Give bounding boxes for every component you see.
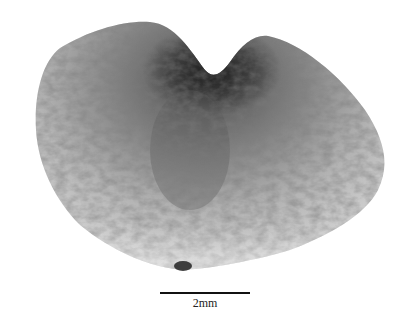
scale-bar-line (160, 292, 250, 294)
hilum-spot (174, 261, 192, 271)
seed-specimen-image (0, 0, 416, 322)
scale-bar-label: 2mm (160, 296, 250, 311)
